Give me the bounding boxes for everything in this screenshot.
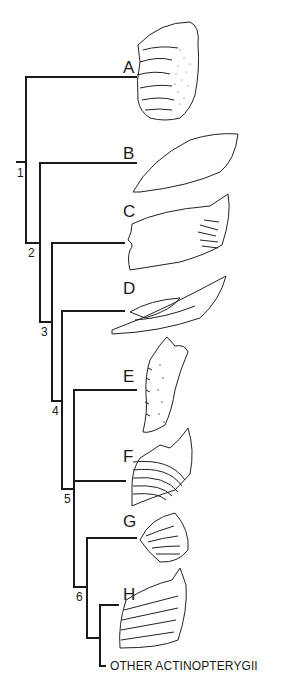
node-label-3: 3 (41, 326, 48, 338)
illustration-a (137, 22, 199, 120)
outgroup-label: OTHER ACTINOPTERYGII (110, 660, 258, 672)
node-label-6: 6 (76, 591, 83, 603)
illustration-f (132, 428, 192, 506)
illustration-h (120, 568, 187, 648)
node-label-2: 2 (28, 247, 35, 259)
node-label-5: 5 (64, 493, 71, 505)
taxon-label-c: C (123, 203, 135, 220)
illustration-c (128, 194, 229, 270)
tree-branches (16, 77, 137, 666)
branch-h-other (100, 605, 119, 666)
illustration-e (143, 337, 188, 432)
branch-a (26, 77, 137, 243)
node-label-4: 4 (52, 405, 59, 417)
node-label-1: 1 (17, 167, 24, 179)
taxon-label-g: G (123, 513, 136, 530)
taxon-label-f: F (123, 448, 133, 465)
illustration-b (133, 134, 238, 192)
taxon-label-h: H (123, 586, 135, 603)
branch-d (62, 311, 125, 489)
illustration-g (140, 513, 188, 562)
taxon-label-e: E (123, 368, 134, 385)
branch-e (74, 390, 137, 587)
illustrations (112, 22, 238, 648)
cladogram-svg (0, 0, 290, 683)
taxon-label-d: D (123, 280, 135, 297)
taxon-label-b: B (123, 145, 134, 162)
taxon-label-a: A (123, 59, 134, 76)
